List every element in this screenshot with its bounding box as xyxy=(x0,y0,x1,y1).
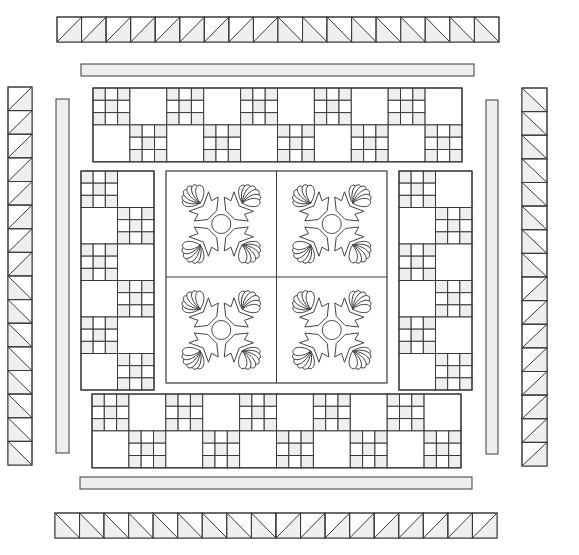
border-bottom xyxy=(55,513,497,538)
sashing-left xyxy=(56,99,69,453)
plain-square xyxy=(436,244,473,281)
nine-patch-block xyxy=(388,88,425,125)
plain-square xyxy=(387,431,424,468)
block-row-bottom xyxy=(92,394,461,468)
plain-square xyxy=(313,431,350,468)
nine-patch-block xyxy=(118,281,155,318)
nine-patch-block xyxy=(129,431,166,468)
plain-square xyxy=(118,171,155,208)
rosette-center-circle xyxy=(322,320,341,339)
nine-patch-block xyxy=(313,394,350,431)
nine-patch-block xyxy=(277,431,314,468)
plain-square xyxy=(314,125,351,162)
center-applique-medallion xyxy=(166,171,387,383)
nine-patch-block xyxy=(278,125,315,162)
nine-patch-block xyxy=(399,317,436,354)
rosette-center-circle xyxy=(212,214,231,233)
nine-patch-block xyxy=(81,244,118,281)
nine-patch-block xyxy=(425,125,462,162)
plain-square xyxy=(129,394,166,431)
plain-square xyxy=(424,394,461,431)
nine-patch-block xyxy=(81,171,118,208)
plain-square xyxy=(203,394,240,431)
plain-square xyxy=(351,88,388,125)
nine-patch-block xyxy=(166,394,203,431)
nine-patch-block xyxy=(350,431,387,468)
plain-square xyxy=(399,208,436,245)
nine-patch-block xyxy=(399,171,436,208)
nine-patch-block xyxy=(92,394,129,431)
nine-patch-block xyxy=(240,394,277,431)
plain-square xyxy=(240,431,277,468)
nine-patch-block xyxy=(424,431,461,468)
quilt-diagram xyxy=(0,0,579,555)
plain-square xyxy=(277,394,314,431)
nine-patch-block xyxy=(436,354,473,391)
border-left xyxy=(8,87,32,465)
plain-square xyxy=(241,125,278,162)
plain-square xyxy=(92,431,129,468)
nine-patch-block xyxy=(436,208,473,245)
plain-square xyxy=(93,125,130,162)
plain-square xyxy=(399,354,436,391)
nine-patch-block xyxy=(387,394,424,431)
plain-square xyxy=(118,317,155,354)
plain-square xyxy=(130,88,167,125)
nine-patch-block xyxy=(436,281,473,318)
plain-square xyxy=(388,125,425,162)
nine-patch-block xyxy=(93,88,130,125)
border-right xyxy=(522,88,547,466)
rosette-center-circle xyxy=(322,214,341,233)
plain-square xyxy=(399,281,436,318)
plain-square xyxy=(167,125,204,162)
nine-patch-block xyxy=(81,317,118,354)
plain-square xyxy=(81,281,118,318)
plain-square xyxy=(118,244,155,281)
plain-square xyxy=(425,88,462,125)
block-row-right xyxy=(399,171,472,390)
nine-patch-block xyxy=(203,431,240,468)
plain-square xyxy=(436,317,473,354)
plain-square xyxy=(278,88,315,125)
block-row-top xyxy=(93,88,462,162)
plain-square xyxy=(81,208,118,245)
nine-patch-block xyxy=(167,88,204,125)
plain-square xyxy=(166,431,203,468)
nine-patch-block xyxy=(118,354,155,391)
block-row-left xyxy=(81,171,154,390)
border-top xyxy=(57,17,499,42)
sashing-bottom xyxy=(80,477,472,489)
sashing-right xyxy=(486,100,498,454)
rosette-center-circle xyxy=(212,320,231,339)
plain-square xyxy=(204,88,241,125)
plain-square xyxy=(81,354,118,391)
nine-patch-block xyxy=(351,125,388,162)
plain-square xyxy=(350,394,387,431)
sashing-top xyxy=(81,64,474,76)
nine-patch-block xyxy=(399,244,436,281)
nine-patch-block xyxy=(118,208,155,245)
plain-square xyxy=(436,171,473,208)
nine-patch-block xyxy=(130,125,167,162)
nine-patch-block xyxy=(204,125,241,162)
nine-patch-block xyxy=(314,88,351,125)
nine-patch-block xyxy=(241,88,278,125)
